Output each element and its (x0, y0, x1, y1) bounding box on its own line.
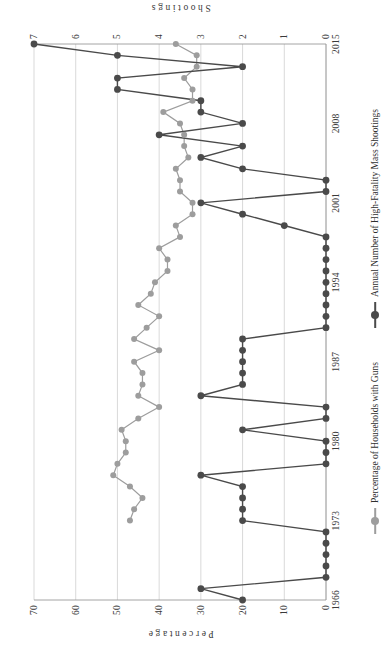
left-tick-30: 30 (196, 605, 206, 615)
left-tick-50: 50 (112, 605, 122, 615)
left-tick-0: 0 (321, 605, 331, 610)
legend-marker-icon (370, 302, 380, 328)
right-tick-1: 1 (279, 34, 289, 39)
plot-canvas (34, 44, 326, 600)
chart-figure-rotated: 010203040506070 01234567 196619731980198… (0, 0, 386, 654)
right-tick-0: 0 (321, 34, 331, 39)
left-tick-60: 60 (71, 605, 81, 615)
plot-area: 010203040506070 01234567 196619731980198… (34, 44, 326, 600)
left-tick-20: 20 (238, 605, 248, 615)
x-tick-2015: 2015 (331, 34, 341, 54)
chart-legend: Percentage of Households with GunsAnnual… (370, 109, 380, 534)
gridlines (34, 44, 326, 600)
x-tick-1973: 1973 (331, 511, 341, 531)
left-tick-40: 40 (154, 605, 164, 615)
legend-item-shootings: Annual Number of High-Fatality Mass Shoo… (370, 109, 380, 328)
left-tick-70: 70 (29, 605, 39, 615)
right-tick-4: 4 (154, 34, 164, 39)
right-tick-7: 7 (29, 34, 39, 39)
right-tick-3: 3 (196, 34, 206, 39)
legend-marker-icon (370, 508, 380, 534)
series-markers-guns (110, 41, 199, 524)
right-axis-title: Shootings (149, 3, 210, 13)
axis-lines (34, 44, 326, 600)
x-tick-1994: 1994 (331, 272, 341, 292)
x-tick-1966: 1966 (331, 590, 341, 610)
x-tick-2008: 2008 (331, 114, 341, 134)
legend-label: Percentage of Households with Guns (370, 362, 380, 503)
x-tick-1987: 1987 (331, 352, 341, 372)
right-tick-5: 5 (112, 34, 122, 39)
chart-figure: 010203040506070 01234567 196619731980198… (0, 0, 386, 654)
right-tick-2: 2 (238, 34, 248, 39)
left-tick-10: 10 (279, 605, 289, 615)
x-tick-2001: 2001 (331, 193, 341, 213)
legend-label: Annual Number of High-Fatality Mass Shoo… (370, 109, 380, 297)
legend-item-guns: Percentage of Households with Guns (370, 362, 380, 534)
x-tick-1980: 1980 (331, 431, 341, 451)
right-tick-6: 6 (71, 34, 81, 39)
left-axis-title: Percentage (146, 629, 214, 639)
series-line-shootings (34, 44, 326, 600)
